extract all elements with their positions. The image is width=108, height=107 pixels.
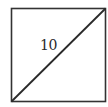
diagonal-line	[12, 9, 106, 102]
diagonal-length-label: 10	[40, 38, 57, 52]
square-with-diagonal	[0, 0, 108, 107]
